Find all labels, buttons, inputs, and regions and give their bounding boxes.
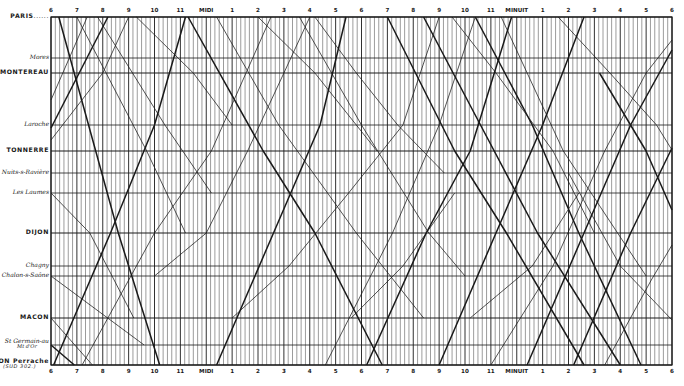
train-path-southbound-express-1: [59, 17, 160, 365]
train-path-northbound-express-3: [217, 17, 346, 365]
station-label-line2: Mt d'Or: [5, 344, 49, 349]
top-hour-tick-label: 8: [411, 8, 415, 14]
top-hour-tick-label: 5: [644, 8, 648, 14]
station-label-chagny: Chagny: [26, 262, 49, 268]
train-path-southbound-express-6: [600, 73, 673, 210]
bottom-hour-tick-label: MIDI: [199, 369, 213, 375]
train-path-southbound-6: [299, 17, 465, 276]
top-hour-tick-label: 11: [176, 8, 184, 14]
bottom-hour-tick-label: 1: [230, 369, 234, 375]
bottom-hour-tick-label: 4: [618, 369, 622, 375]
station-name: Les Laumes: [13, 188, 49, 195]
top-hour-tick-label: 4: [618, 8, 622, 14]
bottom-hour-tick-label: 11: [487, 369, 495, 375]
station-label-tonnerre: TONNERRE: [6, 147, 49, 153]
station-label-macon: MACON: [20, 314, 49, 320]
top-hour-tick-label: 2: [567, 8, 571, 14]
bottom-hour-tick-label: 2: [567, 369, 571, 375]
bottom-hour-tick-label: 4: [308, 369, 312, 375]
bottom-hour-tick-label: 1: [541, 369, 545, 375]
station-name: Chagny: [26, 261, 49, 268]
top-hour-tick-label: 6: [360, 8, 364, 14]
bottom-hour-tick-label: 6: [49, 369, 53, 375]
top-hour-tick-label: 8: [101, 8, 105, 14]
train-path-northbound-3: [82, 17, 271, 365]
top-hour-tick-label: 5: [334, 8, 338, 14]
bottom-hour-tick-label: 3: [282, 369, 286, 375]
top-hour-tick-label: 1: [541, 8, 545, 14]
station-name: Mores: [30, 53, 49, 60]
top-hour-tick-label: 4: [308, 8, 312, 14]
station-label-laroche: Laroche: [24, 121, 49, 127]
train-path-southbound-express-4: [424, 17, 621, 365]
top-hour-tick-label: 3: [592, 8, 596, 14]
bottom-hour-tick-label: 7: [385, 369, 389, 375]
top-hour-tick-label: 10: [461, 8, 469, 14]
top-hour-tick-label: 6: [670, 8, 674, 14]
station-name: MACON: [20, 313, 49, 320]
bottom-hour-tick-label: 11: [176, 369, 184, 375]
station-label-chalon: Chalon-s-Saône: [2, 272, 49, 278]
top-hour-tick-label: MINUIT: [505, 8, 528, 14]
top-hour-tick-label: 6: [49, 8, 53, 14]
leader-dots: ......: [34, 12, 49, 19]
bottom-hour-tick-label: 8: [101, 369, 105, 375]
bottom-hour-tick-label: 9: [127, 369, 131, 375]
bottom-hour-tick-label: MINUIT: [505, 369, 528, 375]
station-name: DIJON: [26, 228, 49, 235]
bottom-hour-tick-label: 5: [334, 369, 338, 375]
top-hour-tick-label: 7: [385, 8, 389, 14]
top-hour-tick-label: 2: [256, 8, 260, 14]
bottom-hour-tick-label: 5: [644, 369, 648, 375]
train-path-southbound-10: [51, 193, 134, 318]
top-hour-tick-label: 10: [151, 8, 159, 14]
station-label-line2: (SUD 302.): [0, 364, 49, 369]
bottom-hour-tick-label: 10: [461, 369, 469, 375]
train-path-southbound-4: [217, 17, 424, 318]
station-label-laumes: Les Laumes: [13, 189, 49, 195]
top-hour-tick-label: 1: [230, 8, 234, 14]
station-label-mores: Mores: [30, 54, 49, 60]
station-label-dijon: DIJON: [26, 229, 49, 235]
top-hour-tick-label: 9: [437, 8, 441, 14]
station-name: Laroche: [24, 120, 49, 127]
top-hour-tick-label: 7: [75, 8, 79, 14]
bottom-hour-tick-label: 3: [592, 369, 596, 375]
station-name: Nuits-s-Ravière: [2, 168, 49, 175]
station-name: PARIS: [10, 12, 33, 19]
station-label-stgermain: St Germain-auMt d'Or: [5, 338, 49, 349]
bottom-hour-tick-label: 2: [256, 369, 260, 375]
bottom-hour-tick-label: 6: [360, 369, 364, 375]
station-name: MONTEREAU: [0, 68, 49, 75]
station-label-lyon: LYON Perrache(SUD 302.): [0, 358, 49, 369]
train-path-northbound-2: [51, 17, 87, 100]
bottom-hour-tick-label: 10: [151, 369, 159, 375]
top-hour-tick-label: 9: [127, 8, 131, 14]
station-label-nuits: Nuits-s-Ravière: [2, 169, 49, 175]
station-label-montereau: MONTEREAU: [0, 69, 49, 75]
top-hour-tick-label: MIDI: [199, 8, 213, 14]
train-path-southbound-express-3: [387, 17, 584, 365]
bottom-hour-tick-label: 9: [437, 369, 441, 375]
bottom-hour-tick-label: 7: [75, 369, 79, 375]
bottom-hour-tick-label: 8: [411, 369, 415, 375]
train-timetable-chart: [0, 0, 684, 386]
top-hour-tick-label: 3: [282, 8, 286, 14]
top-hour-tick-label: 11: [487, 8, 495, 14]
bottom-hour-tick-label: 6: [670, 369, 674, 375]
station-name: TONNERRE: [6, 146, 49, 153]
train-path-northbound-8: [605, 245, 672, 365]
station-label-paris: PARIS......: [10, 13, 49, 19]
station-name: Chalon-s-Saône: [2, 271, 49, 278]
train-path-southbound-13: [315, 17, 444, 173]
